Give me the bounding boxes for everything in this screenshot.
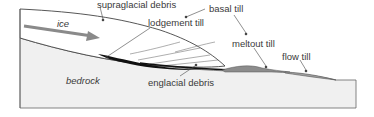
label-englacial-debris: englacial debris xyxy=(148,77,214,88)
glacier-till-diagram: ice bedrock supraglacial debris lodgemen… xyxy=(0,0,374,117)
label-ice: ice xyxy=(57,18,69,29)
label-lodgement-till: lodgement till xyxy=(148,17,204,28)
label-basal-till: basal till xyxy=(209,3,243,14)
label-flow-till: flow till xyxy=(282,51,311,62)
label-meltout-till: meltout till xyxy=(232,38,275,49)
label-bedrock: bedrock xyxy=(66,75,101,86)
label-supraglacial-debris: supraglacial debris xyxy=(97,0,176,10)
meltout-till-mound xyxy=(222,66,290,72)
